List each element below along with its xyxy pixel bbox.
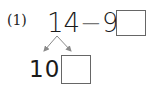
minuend: 14: [47, 8, 80, 38]
decomposition-input-box[interactable]: [61, 55, 91, 84]
minus-operator: −: [80, 8, 102, 38]
answer-input-box[interactable]: [116, 10, 146, 36]
decomposition-known-part: 10: [29, 55, 60, 83]
problem-number-label: (1): [7, 12, 27, 28]
